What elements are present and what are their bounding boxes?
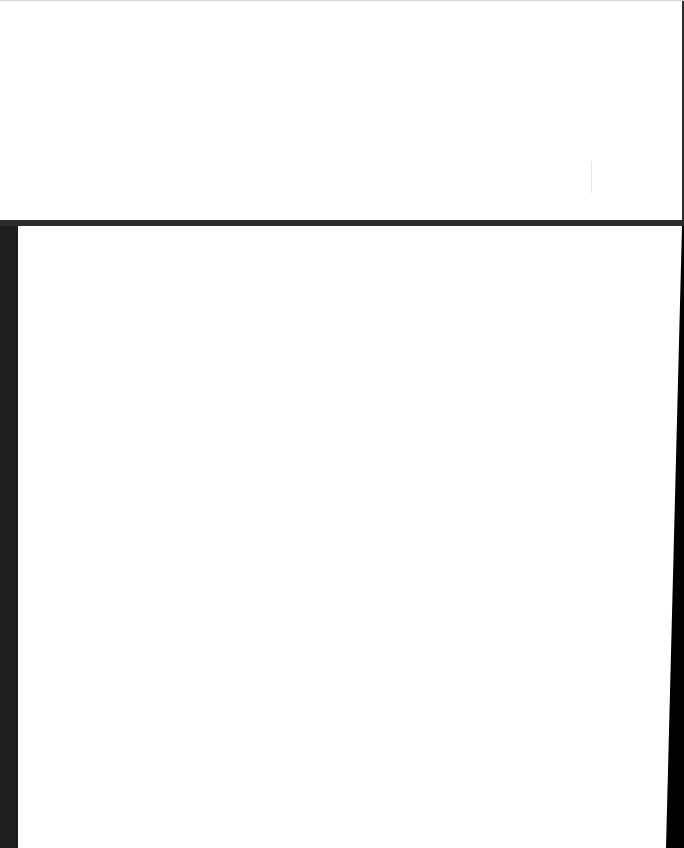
bottom-panel bbox=[0, 226, 684, 848]
top-panel bbox=[0, 0, 684, 221]
left-dark-bar bbox=[0, 226, 18, 848]
faint-vertical-mark bbox=[591, 161, 592, 193]
